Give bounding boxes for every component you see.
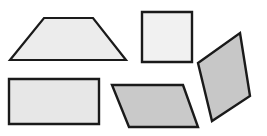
figure-canvas: [0, 0, 267, 136]
shape-rectangle: [9, 79, 99, 124]
shape-square: [142, 12, 192, 62]
shapes-svg: [0, 0, 267, 136]
